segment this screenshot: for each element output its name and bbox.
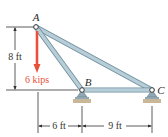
arrowhead-up <box>13 27 16 31</box>
arrowhead <box>148 124 152 127</box>
members <box>36 27 152 90</box>
load-arrow <box>34 31 41 73</box>
arrowhead <box>82 124 86 127</box>
support-base-B <box>75 97 89 99</box>
arrowhead <box>38 124 42 127</box>
ground-B <box>73 99 91 103</box>
horizontal-dimension-label-1: 6 ft <box>52 120 66 131</box>
member-AC <box>36 27 152 90</box>
joint-A-pin <box>34 25 39 30</box>
joint-A-label: A <box>32 11 40 23</box>
joint-C-pin <box>150 88 155 93</box>
load-arrowhead-icon <box>34 64 41 73</box>
joint-B-label: B <box>85 76 92 88</box>
truss-diagram: 8 ft 6 kips A B C <box>0 0 168 137</box>
arrowhead <box>78 124 82 127</box>
vertical-dimension-label: 8 ft <box>8 51 22 62</box>
arrowhead-down <box>13 86 16 90</box>
joint-B-pin <box>80 88 85 93</box>
load-label: 6 kips <box>25 74 49 85</box>
support-base-C <box>145 97 159 99</box>
ground-C <box>143 99 161 103</box>
horizontal-dimension-label-2: 9 ft <box>108 120 122 131</box>
joint-C-label: C <box>157 84 165 96</box>
